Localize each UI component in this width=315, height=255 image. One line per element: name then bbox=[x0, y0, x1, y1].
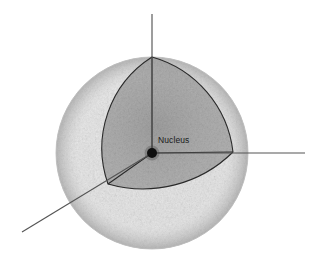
nucleus-dot bbox=[147, 148, 157, 158]
nucleus-label: Nucleus bbox=[158, 135, 189, 145]
atom-diagram-canvas: Nucleus bbox=[0, 0, 315, 255]
nucleus-marker bbox=[145, 146, 160, 161]
atom-diagram-figure: Nucleus bbox=[0, 0, 315, 255]
